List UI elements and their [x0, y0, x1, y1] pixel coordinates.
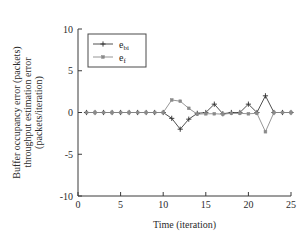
x-tick-label: 25	[286, 199, 296, 210]
data-marker-square	[273, 111, 276, 114]
data-marker-square	[170, 99, 173, 102]
data-marker-square	[162, 111, 165, 114]
y-tick-label: -10	[60, 191, 73, 202]
data-marker-square	[85, 111, 88, 114]
x-axis-title: Time (iteration)	[153, 219, 216, 231]
data-marker-square	[179, 100, 182, 103]
x-tick-label: 0	[76, 199, 81, 210]
data-marker-square	[281, 111, 284, 114]
data-marker-square	[136, 111, 139, 114]
data-marker-square	[196, 113, 199, 116]
series-line-e_f	[87, 100, 291, 132]
y-tick-label: 5	[68, 65, 73, 76]
chart-svg: 0510152025-10-50510Time (iteration)Buffe…	[0, 0, 308, 236]
x-tick-label: 15	[201, 199, 211, 210]
data-marker-square	[213, 112, 216, 115]
y-axis-title-line: (packets/iteration)	[33, 76, 45, 149]
y-tick-label: 0	[68, 107, 73, 118]
data-marker-square	[102, 56, 105, 59]
chart-figure: 0510152025-10-50510Time (iteration)Buffe…	[0, 0, 308, 236]
x-tick-label: 10	[158, 199, 168, 210]
data-marker-square	[187, 107, 190, 110]
data-marker-square	[290, 111, 293, 114]
data-marker-square	[111, 111, 114, 114]
legend-box	[88, 34, 146, 67]
data-marker-square	[230, 112, 233, 115]
data-marker-square	[247, 112, 250, 115]
data-marker-square	[204, 112, 207, 115]
data-marker-square	[119, 111, 122, 114]
x-tick-label: 5	[118, 199, 123, 210]
data-marker-square	[94, 111, 97, 114]
data-marker-square	[264, 130, 267, 133]
data-marker-square	[153, 111, 156, 114]
x-tick-label: 20	[243, 199, 253, 210]
y-tick-label: -5	[65, 149, 73, 160]
data-marker-square	[145, 111, 148, 114]
data-marker-square	[256, 112, 259, 115]
y-axis-title-line: throughput estimation error	[22, 57, 33, 168]
data-marker-square	[102, 111, 105, 114]
data-marker-square	[221, 113, 224, 116]
data-marker-square	[238, 112, 241, 115]
data-marker-plus	[263, 93, 268, 98]
data-marker-square	[128, 111, 131, 114]
y-tick-label: 10	[63, 24, 73, 35]
